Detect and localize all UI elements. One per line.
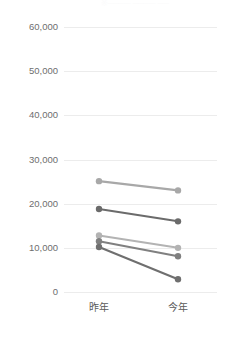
series-series-1 [96,178,181,194]
data-point-marker [175,187,181,193]
data-point-marker [96,178,102,184]
series-line [99,241,178,256]
series-line [99,247,178,279]
series-line [99,181,178,190]
data-point-marker [96,206,102,212]
data-point-marker [175,276,181,282]
data-point-marker [175,218,181,224]
data-point-marker [96,244,102,250]
series-series-2 [96,206,181,225]
data-point-marker [175,245,181,251]
series-line [99,235,178,247]
plot-area: 60,00050,00040,00030,00020,00010,0000 昨年… [0,0,230,356]
series-line [99,209,178,221]
data-point-marker [96,238,102,244]
series-layer [0,0,230,356]
data-point-marker [96,232,102,238]
data-point-marker [175,253,181,259]
chart-container: ※──── ──── ── 60,00050,00040,00030,00020… [0,0,230,356]
